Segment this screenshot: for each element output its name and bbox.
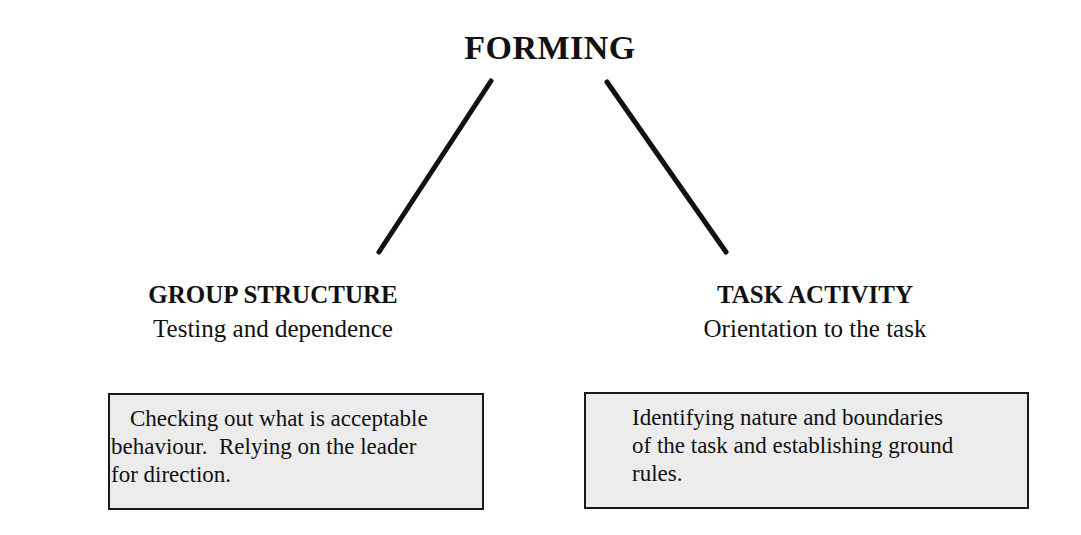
task-activity-subheading: Orientation to the task xyxy=(660,314,970,344)
group-structure-subheading: Testing and dependence xyxy=(108,314,438,344)
connector-left xyxy=(379,81,491,252)
group-structure-heading: GROUP STRUCTURE xyxy=(108,280,438,310)
description-line: of the task and establishing ground xyxy=(632,432,953,460)
group-structure-description-box: Checking out what is acceptable behaviou… xyxy=(108,393,484,510)
task-activity-heading: TASK ACTIVITY xyxy=(660,280,970,310)
description-line: rules. xyxy=(632,460,953,488)
description-line: Identifying nature and boundaries xyxy=(632,404,953,432)
description-line: behaviour. Relying on the leader xyxy=(111,433,428,461)
connector-right xyxy=(607,82,726,252)
task-activity-description-box: Identifying nature and boundaries of the… xyxy=(584,392,1029,509)
description-line: Checking out what is acceptable xyxy=(130,405,428,433)
description-line: for direction. xyxy=(111,461,428,489)
